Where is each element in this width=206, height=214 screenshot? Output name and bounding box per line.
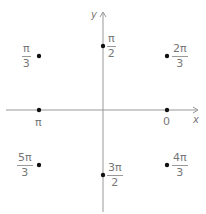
label-4pi-over-3: 4π 3 [172,152,188,179]
label-zero: 0 [163,116,170,127]
point-3pi-over-2 [101,173,105,177]
numerator: 4π [172,152,188,166]
point-zero [165,108,169,112]
label-pi-over-2: π 2 [107,33,116,60]
point-5pi-over-3 [37,163,41,167]
point-pi-over-3 [37,54,41,58]
point-pi [37,108,41,112]
label-pi-over-3: π 3 [22,43,31,70]
label-2pi-over-3: 2π 3 [172,43,188,70]
coordinate-plane [0,0,206,214]
numerator: 2π [172,43,188,57]
numerator: π [22,43,31,57]
denominator: 3 [176,166,183,179]
y-axis-label: y [91,9,97,20]
label-3pi-over-2: 3π 2 [107,162,123,189]
x-axis-label: x [193,114,199,125]
denominator: 3 [23,57,30,70]
denominator: 3 [176,57,183,70]
point-2pi-over-3 [165,54,169,58]
denominator: 3 [21,166,28,179]
label-5pi-over-3: 5π 3 [17,152,33,179]
denominator: 2 [111,176,118,189]
point-pi-over-2 [101,44,105,48]
numerator: π [107,33,116,47]
numerator: 3π [107,162,123,176]
label-pi: π [35,117,42,128]
numerator: 5π [17,152,33,166]
point-4pi-over-3 [165,163,169,167]
denominator: 2 [108,47,115,60]
